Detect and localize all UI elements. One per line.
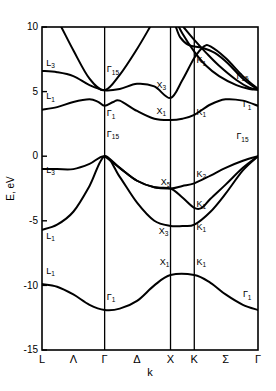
x-tick-label-6: Σ [222,353,229,365]
band-curve-valence-band-1 [42,274,258,310]
band-label-x3-12: X3 [159,226,169,238]
band-curve-valence-band-3 [42,156,258,209]
x-tick-label-1: Λ [70,353,78,365]
x-tick-label-5: K [191,353,199,365]
band-label-l3-0: L3 [46,58,55,70]
band-label-x1-10: X1 [156,106,166,118]
band-label-k2-16: K2 [196,169,206,181]
band-label-x3-9: X3 [156,80,166,92]
x-tick-label-0: L [39,353,45,365]
band-label-γ15-5: Γ15 [107,64,120,76]
band-structure-figure: 1050-5-10-15E, eVLΛΓΔXKΣΓkL3L1L3L1L1Γ15Γ… [0,0,276,391]
y-tick-label-5: 5 [32,86,38,97]
band-label-k1-18: K1 [196,222,206,234]
x-tick-label-7: Γ [255,353,261,365]
plot-frame [42,27,258,350]
band-structure-plot: 1050-5-10-15E, eVLΛΓΔXKΣΓkL3L1L3L1L1Γ15Γ… [0,0,276,391]
band-label-x1-13: X1 [160,257,170,269]
band-label-l1-3: L1 [46,231,55,243]
y-tick-label-10: 10 [27,21,39,32]
band-label-γ15-20: Γ15 [236,71,249,83]
band-label-l1-1: L1 [46,91,55,103]
band-label-k1-19: K1 [196,257,206,269]
band-curve-valence-band-4 [105,156,258,188]
y-tick-label--5: -5 [29,215,38,226]
y-axis-title: E, eV [5,176,16,201]
band-curve-conduction-band-1 [42,99,258,120]
x-tick-label-3: Δ [133,353,141,365]
y-tick-label-0: 0 [32,150,38,161]
band-label-γ15-7: Γ15 [107,129,120,141]
band-label-k1-14: K1 [196,55,206,66]
band-label-γ1-21: Γ1 [243,99,252,111]
band-curves-group [42,0,258,310]
x-axis-title: k [147,366,153,378]
band-curve-conduction-band-3 [42,0,150,90]
y-tick-label--15: -15 [24,344,39,355]
band-label-γ1-8: Γ1 [107,292,116,304]
x-tick-label-4: X [167,353,175,365]
band-label-k1-17: K1 [196,199,206,211]
x-tick-label-2: Γ [102,353,108,365]
band-label-l1-4: L1 [46,266,55,278]
band-label-γ15-22: Γ15 [236,131,249,143]
band-label-γ1-6: Γ1 [107,108,116,120]
band-label-γ1-23: Γ1 [243,289,252,301]
band-label-l3-2: L3 [46,165,55,177]
band-label-x5-11: X5 [161,177,171,189]
y-tick-label--10: -10 [24,280,39,291]
